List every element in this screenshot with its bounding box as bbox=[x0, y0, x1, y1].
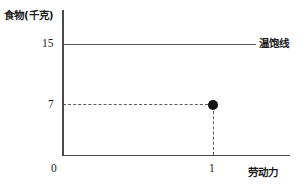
y-axis-line bbox=[62, 10, 64, 156]
production-point-marker bbox=[208, 100, 218, 110]
subsistence-line bbox=[63, 44, 256, 45]
x-tick-label-1: 1 bbox=[209, 163, 215, 175]
y-tick-label-15: 15 bbox=[42, 38, 54, 50]
economics-food-labor-chart: 食物(千克) 劳动力 15 7 0 1 温饱线 bbox=[0, 0, 308, 187]
y-tick-label-7: 7 bbox=[48, 99, 54, 111]
x-axis-title: 劳动力 bbox=[248, 167, 278, 178]
y-axis-title: 食物(千克) bbox=[4, 10, 54, 21]
x-axis-line bbox=[62, 155, 290, 157]
labor-level-guide-line bbox=[213, 106, 214, 155]
subsistence-line-label: 温饱线 bbox=[259, 38, 289, 49]
origin-tick-label-0: 0 bbox=[51, 163, 57, 175]
food-level-guide-line bbox=[63, 104, 213, 105]
